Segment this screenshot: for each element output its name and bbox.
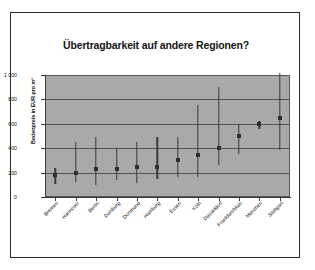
- y-axis-line: [45, 75, 46, 198]
- y-tick-label: 800: [8, 96, 17, 102]
- data-series: [45, 75, 290, 197]
- error-bar: [197, 105, 198, 178]
- data-point-marker: [257, 122, 261, 126]
- data-point-marker: [237, 134, 241, 138]
- data-point-marker: [278, 116, 282, 120]
- data-point-marker: [196, 153, 200, 157]
- page-title: Übertragbarkeit auf andere Regionen?: [11, 39, 301, 51]
- data-point-marker: [53, 173, 57, 177]
- x-axis-line: [45, 197, 291, 198]
- y-tick-label: 600: [8, 121, 17, 127]
- error-bar: [157, 137, 158, 179]
- slide-page: Übertragbarkeit auf andere Regionen? Bod…: [0, 0, 315, 270]
- data-point-marker: [135, 165, 139, 169]
- data-point-marker: [155, 165, 159, 169]
- y-tick-mark: [41, 197, 45, 198]
- error-bar: [136, 142, 137, 183]
- error-bar: [238, 124, 239, 154]
- y-tick-mark: [41, 148, 45, 149]
- x-tick-label: Stuttgart: [237, 200, 284, 247]
- y-tick-label: 1 000: [4, 72, 17, 78]
- error-bar: [75, 142, 76, 182]
- data-point-marker: [217, 146, 221, 150]
- y-tick-mark: [41, 99, 45, 100]
- error-bar: [279, 73, 280, 150]
- y-tick-mark: [41, 75, 45, 76]
- data-point-marker: [94, 167, 98, 171]
- y-tick-label: 400: [8, 145, 17, 151]
- y-tick-label: 200: [8, 170, 17, 176]
- data-point-marker: [176, 158, 180, 162]
- error-bar: [218, 87, 219, 165]
- error-bar: [95, 137, 96, 185]
- y-tick-mark: [41, 173, 45, 174]
- y-tick-mark: [41, 124, 45, 125]
- data-point-marker: [115, 167, 119, 171]
- error-bar: [116, 148, 117, 180]
- y-tick-label: 0: [14, 194, 17, 200]
- slide-frame: Übertragbarkeit auf andere Regionen? Bod…: [10, 12, 300, 258]
- y-axis-title: Bodenpreis in EUR pro m²: [30, 59, 36, 163]
- data-point-marker: [74, 171, 78, 175]
- chart-plot: [45, 75, 290, 197]
